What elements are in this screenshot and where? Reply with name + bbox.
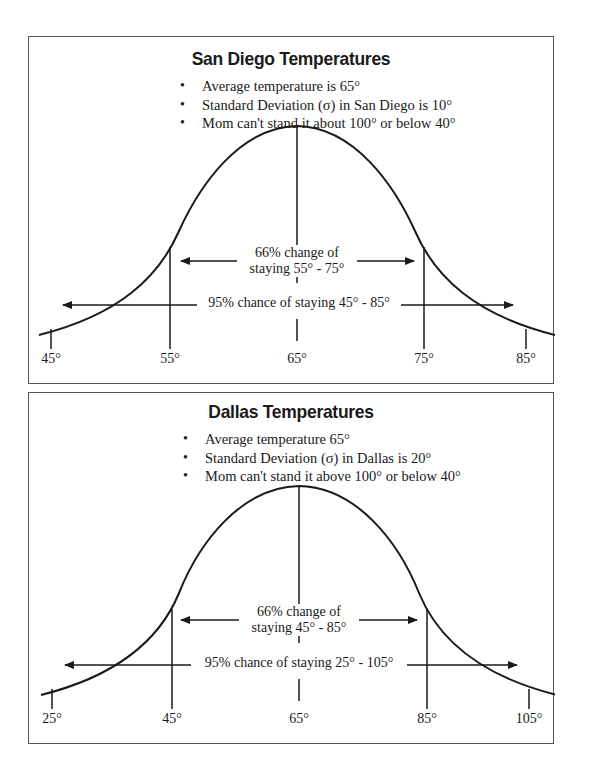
tick-label: 85°: [506, 351, 546, 367]
label-66-percent: 66% change of staying 55° - 75°: [237, 245, 357, 277]
tick-label: 75°: [404, 351, 444, 367]
tick-label: 85°: [407, 711, 447, 727]
tick-label: 45°: [152, 711, 192, 727]
tick-label: 105°: [507, 711, 551, 727]
label-95-percent: 95% chance of staying 45° - 85°: [197, 295, 401, 311]
tick-label: 65°: [279, 711, 319, 727]
tick-label: 65°: [277, 351, 317, 367]
dallas-panel: Dallas Temperatures Average temperature …: [28, 392, 554, 744]
label-95-percent: 95% chance of staying 25° - 105°: [189, 655, 409, 671]
san-diego-panel: San Diego Temperatures Average temperatu…: [28, 36, 554, 384]
label-66-percent: 66% change of staying 45° - 85°: [239, 604, 359, 636]
tick-label: 45°: [31, 351, 71, 367]
tick-label: 25°: [32, 711, 72, 727]
tick-label: 55°: [150, 351, 190, 367]
bell-curve-graphic: [29, 393, 555, 745]
bell-curve-graphic: [29, 37, 555, 385]
